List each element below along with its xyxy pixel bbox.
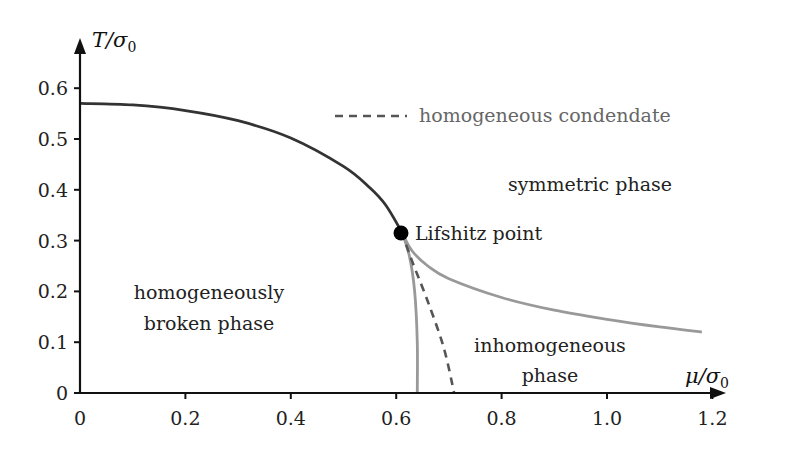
- phase-diagram: 00.20.40.60.81.01.200.10.20.30.40.50.6 T…: [0, 0, 792, 455]
- y-tick-label: 0.2: [38, 280, 68, 302]
- y-axis-label: T/σ0: [92, 28, 136, 55]
- axis-ticks: 00.20.40.60.81.01.200.10.20.30.40.50.6: [38, 77, 728, 429]
- x-tick-label: 0.6: [381, 407, 411, 429]
- y-tick-label: 0: [56, 382, 68, 404]
- lifshitz-point-marker: [394, 226, 409, 241]
- broken-phase-label-line2: broken phase: [144, 312, 274, 334]
- y-tick-label: 0.5: [38, 128, 68, 150]
- y-tick-label: 0.4: [38, 179, 68, 201]
- legend-label: homogeneous condendate: [419, 104, 671, 126]
- x-tick-label: 0.2: [170, 407, 200, 429]
- inhomogeneous-phase-label-line1: inhomogeneous: [474, 334, 626, 356]
- phase-boundary-curve-1: [401, 231, 701, 332]
- x-tick-label: 0.4: [276, 407, 306, 429]
- x-tick-label: 0.8: [486, 407, 516, 429]
- y-axis-arrow-icon: [74, 38, 86, 54]
- lifshitz-point-label: Lifshitz point: [415, 222, 542, 244]
- y-tick-label: 0.1: [38, 331, 68, 353]
- inhomogeneous-phase-label-line2: phase: [522, 364, 579, 386]
- y-tick-label: 0.3: [38, 230, 68, 252]
- symmetric-phase-label: symmetric phase: [508, 173, 672, 195]
- x-tick-label: 1.2: [697, 407, 727, 429]
- x-axis-label: μ/σ0: [685, 364, 729, 391]
- y-tick-label: 0.6: [38, 77, 68, 99]
- phase-boundary-curve-0: [80, 103, 401, 231]
- x-tick-label: 1.0: [592, 407, 622, 429]
- broken-phase-label-line1: homogeneously: [134, 281, 285, 303]
- x-tick-label: 0: [74, 407, 86, 429]
